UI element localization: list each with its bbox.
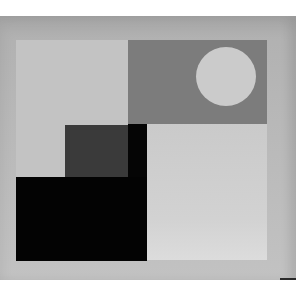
black-rectangle bbox=[16, 177, 147, 261]
light-circle bbox=[196, 47, 256, 106]
dark-gray-square bbox=[65, 125, 128, 177]
artwork-canvas bbox=[0, 0, 307, 291]
frame-corner-mark bbox=[280, 278, 296, 280]
black-vertical-strip bbox=[128, 124, 147, 177]
pale-gray-rectangle bbox=[147, 124, 267, 260]
